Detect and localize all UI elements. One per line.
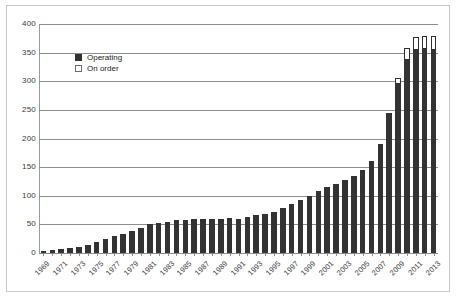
x-axis-tick <box>398 253 399 256</box>
x-axis-tick <box>141 253 142 256</box>
legend-swatch-operating-icon <box>75 54 82 61</box>
bar-segment-operating <box>245 217 250 253</box>
bar-segment-operating <box>386 113 391 253</box>
bar <box>200 24 205 253</box>
x-axis-tick <box>176 253 177 256</box>
bar <box>298 24 303 253</box>
bar-segment-operating <box>333 184 338 253</box>
bar <box>316 24 321 253</box>
bar <box>395 24 400 253</box>
bar-segment-operating <box>129 231 134 253</box>
bar-segment-operating <box>280 208 285 253</box>
bar <box>351 24 356 253</box>
bar-segment-operating <box>271 212 276 253</box>
bar <box>333 24 338 253</box>
bar-segment-operating <box>156 223 161 253</box>
x-axis-tick <box>168 253 169 256</box>
legend-item: On order <box>75 63 122 74</box>
legend-swatch-on-order-icon <box>75 65 82 72</box>
x-axis-tick <box>425 253 426 256</box>
bar <box>289 24 294 253</box>
x-axis-tick <box>114 253 115 256</box>
y-axis-tick-label: 400 <box>6 20 36 28</box>
x-axis-tick <box>283 253 284 256</box>
bar-segment-operating <box>200 219 205 253</box>
bar <box>342 24 347 253</box>
y-axis-tick-label: 50 <box>6 220 36 228</box>
legend-label: On order <box>87 64 119 73</box>
bar-segment-operating <box>183 220 188 253</box>
bar-segment-operating <box>218 219 223 253</box>
bar <box>147 24 152 253</box>
bar-segment-operating <box>209 219 214 253</box>
bar-segment-operating <box>413 50 418 253</box>
x-axis-tick <box>97 253 98 256</box>
x-axis-tick <box>212 253 213 256</box>
x-axis-tick <box>123 253 124 256</box>
bar-segment-operating <box>262 214 267 254</box>
bar <box>191 24 196 253</box>
x-axis-tick <box>301 253 302 256</box>
bar-segment-operating <box>395 84 400 253</box>
bar <box>165 24 170 253</box>
x-axis-tick <box>194 253 195 256</box>
x-axis-tick <box>434 253 435 256</box>
bar <box>50 24 55 253</box>
bar-segment-operating <box>191 219 196 253</box>
bar-segment-operating <box>431 50 436 253</box>
bar <box>245 24 250 253</box>
bar <box>422 24 427 253</box>
x-axis-tick <box>345 253 346 256</box>
x-axis-tick <box>354 253 355 256</box>
x-axis-tick <box>70 253 71 256</box>
bar-segment-operating <box>360 170 365 253</box>
y-axis-tick-label: 350 <box>6 49 36 57</box>
bar <box>413 24 418 253</box>
bar-segment-operating <box>85 245 90 253</box>
y-axis-tick-label: 300 <box>6 77 36 85</box>
bar-segment-operating <box>289 204 294 253</box>
bar <box>156 24 161 253</box>
x-axis-tick <box>274 253 275 256</box>
x-axis-tick <box>380 253 381 256</box>
x-axis-tick <box>52 253 53 256</box>
bar-segment-operating <box>103 239 108 253</box>
bar-segment-operating <box>147 224 152 253</box>
bar <box>369 24 374 253</box>
bar-segment-operating <box>236 219 241 253</box>
bar-segment-on-order <box>431 36 436 50</box>
bar <box>253 24 258 253</box>
bar <box>129 24 134 253</box>
x-axis-tick <box>309 253 310 256</box>
x-axis-tick <box>230 253 231 256</box>
x-axis-tick <box>327 253 328 256</box>
bar <box>431 24 436 253</box>
bar-segment-operating <box>369 161 374 253</box>
bar <box>271 24 276 253</box>
bar-segment-on-order <box>413 37 418 50</box>
bar-segment-operating <box>404 60 409 254</box>
bar-segment-operating <box>422 49 427 253</box>
x-axis-tick <box>61 253 62 256</box>
bar <box>227 24 232 253</box>
bar-chart: 400350300250200150100500 196919711973197… <box>0 0 458 299</box>
bar-segment-operating <box>174 220 179 253</box>
x-axis-tick <box>43 253 44 256</box>
bar <box>386 24 391 253</box>
x-axis-tick <box>159 253 160 256</box>
bar-segment-on-order <box>404 48 409 59</box>
bar-segment-on-order <box>422 36 427 49</box>
x-axis-tick <box>185 253 186 256</box>
legend-item: Operating <box>75 52 122 63</box>
bar <box>404 24 409 253</box>
bar <box>209 24 214 253</box>
y-axis-tick-labels: 400350300250200150100500 <box>3 24 36 253</box>
bar <box>218 24 223 253</box>
x-axis-tick <box>372 253 373 256</box>
bar <box>378 24 383 253</box>
bar <box>280 24 285 253</box>
y-axis-tick-label: 0 <box>6 249 36 257</box>
bar-segment-operating <box>316 191 321 253</box>
bar <box>41 24 46 253</box>
x-axis-tick <box>389 253 390 256</box>
